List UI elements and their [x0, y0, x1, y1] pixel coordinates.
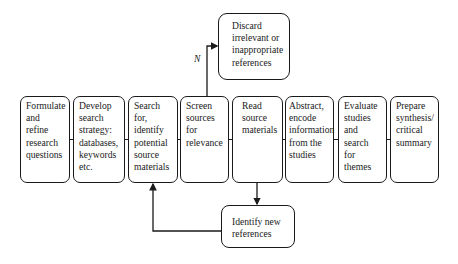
branch-label-no: N: [194, 54, 200, 64]
step-read-materials: Read source materials: [232, 96, 283, 183]
step-evaluate-themes: Evaluate studies and search for themes: [338, 96, 387, 183]
step-abstract-encode: Abstract, encode information from the st…: [285, 96, 334, 183]
step-search-sources: Search for, identify potential source ma…: [128, 96, 178, 183]
identify-new-references-box: Identify new references: [221, 205, 295, 248]
step-prepare-synthesis: Prepare synthesis/ critical summary: [390, 96, 439, 183]
step-screen-sources: Screen sources for relevance: [180, 96, 229, 183]
discard-box: Discard irrelevant or inappropriate refe…: [218, 13, 290, 80]
step-develop-strategy: Develop search strategy: databases, keyw…: [73, 96, 125, 183]
step-formulate: Formulate and refine research questions: [20, 96, 70, 183]
